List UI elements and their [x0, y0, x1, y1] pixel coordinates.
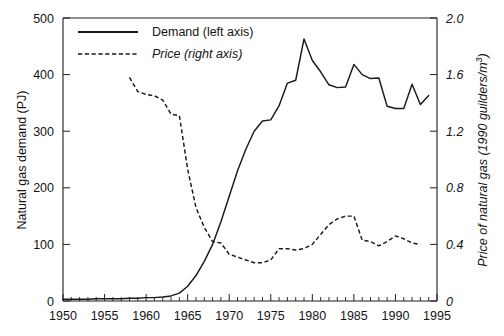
natural-gas-demand-price-chart: 1950195519601965197019751980198519901995…: [0, 0, 504, 336]
y-tick-label: 100: [33, 238, 54, 252]
y-tick-label: 300: [33, 125, 54, 139]
y2-tick-label: 0.8: [446, 181, 463, 195]
x-tick-label: 1990: [382, 309, 410, 323]
x-tick-label: 1970: [215, 309, 243, 323]
x-tick-label: 1985: [340, 309, 368, 323]
y-tick-label: 0: [47, 295, 54, 309]
x-tick-label: 1950: [49, 309, 77, 323]
y-tick-label: 400: [33, 68, 54, 82]
y2-tick-label: 0: [446, 295, 453, 309]
legend-label-demand: Demand (left axis): [152, 25, 253, 39]
y-tick-label: 200: [33, 181, 54, 195]
y-axis-left-title: Natural gas demand (PJ): [15, 91, 29, 230]
y2-tick-label: 2.0: [445, 12, 463, 26]
y2-tick-label: 1.2: [446, 125, 463, 139]
x-tick-label: 1980: [298, 309, 326, 323]
chart-legend: Demand (left axis) Price (right axis): [78, 25, 253, 61]
x-tick-label: 1960: [132, 309, 160, 323]
plot-frame: [63, 18, 437, 301]
x-tick-label: 1965: [174, 309, 202, 323]
series-line-price: [129, 77, 420, 262]
y2-tick-label: 1.6: [446, 68, 463, 82]
legend-label-price: Price (right axis): [152, 47, 242, 61]
x-tick-label: 1975: [257, 309, 285, 323]
y-axis-left: 0100200300400500: [33, 12, 70, 309]
y2-tick-label: 0.4: [446, 238, 463, 252]
chart-figure: 1950195519601965197019751980198519901995…: [0, 0, 504, 336]
axis-frame: [63, 18, 437, 301]
x-tick-label: 1995: [423, 309, 451, 323]
x-tick-label: 1955: [91, 309, 119, 323]
series-group: [63, 39, 429, 299]
y-tick-label: 500: [33, 12, 54, 26]
y-axis-right: 00.40.81.21.62.0: [430, 12, 463, 309]
y-axis-right-title: Price of natural gas (1990 guilders/m3): [474, 53, 490, 266]
